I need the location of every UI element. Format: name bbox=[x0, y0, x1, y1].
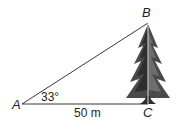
vertex-label-b: B bbox=[142, 5, 151, 20]
angle-label: 33° bbox=[41, 90, 59, 104]
vertex-label-c: C bbox=[143, 105, 153, 120]
vertex-label-a: A bbox=[11, 97, 21, 112]
base-length-label: 50 m bbox=[74, 106, 101, 120]
triangle-diagram: A B C 33° 50 m bbox=[0, 0, 183, 123]
